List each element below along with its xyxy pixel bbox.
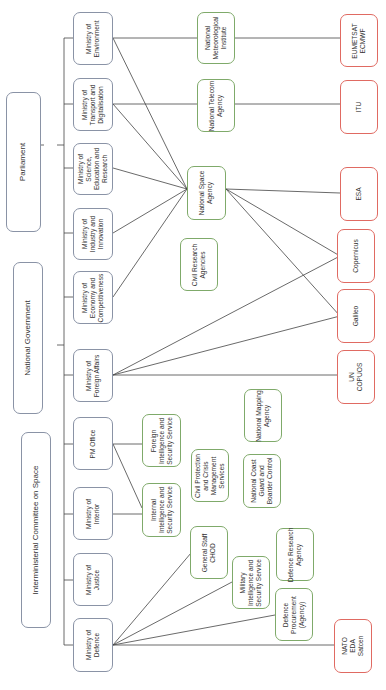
national-government-label: National Government — [24, 300, 32, 376]
intl-copernicus: Copernicus — [337, 229, 375, 283]
agency-label: Foreign Intelligence and Security Servic… — [150, 417, 174, 465]
agency-label: Civil Protection and Crisis Management S… — [194, 454, 226, 498]
agency-label: National Meteorological Institute — [204, 17, 228, 60]
agency-space: National Space Agency — [187, 166, 226, 220]
agency-military-intelligence: Military Intelligence and Security Servi… — [232, 556, 270, 609]
international-label: Copernicus — [352, 239, 360, 272]
agency-defence-research: Defence Research Agency — [276, 528, 314, 581]
agency-foreign-intelligence: Foreign Intelligence and Security Servic… — [142, 414, 181, 467]
agency-telecom: National Telecom Agency — [197, 79, 235, 132]
agency-mapping: National Mapping Agency — [244, 389, 282, 442]
ministry-label: Ministry of Justice — [85, 564, 101, 594]
ministry-foreign-affairs: Ministry of Foreign Affairs — [73, 349, 113, 402]
international-label: NATO EDA Satcen — [341, 636, 365, 657]
ministry-label: Ministry of Economy and Competitiveness — [81, 273, 105, 322]
agency-label: General Staff CHOD — [201, 533, 217, 572]
ministry-science: Ministry of Science, Education and Resea… — [73, 143, 113, 195]
ministry-label: Ministry of Defence — [85, 630, 101, 660]
agency-civil-protection: Civil Protection and Crisis Management S… — [191, 449, 229, 502]
agency-label: Civil Research Agencies — [191, 243, 207, 286]
intl-nato-eda-satcen: NATO EDA Satcen — [334, 619, 372, 673]
agency-label: National Space Agency — [199, 171, 215, 216]
intl-galileo: Galileo — [337, 289, 375, 343]
ministry-label: Ministry of Industry and Innovation — [81, 216, 105, 252]
ministry-industry: Ministry of Industry and Innovation — [73, 208, 113, 260]
intl-un-copuos: UN COPUOS — [337, 350, 375, 404]
ministry-transport: Ministry of Transport and Digitalisation — [73, 78, 113, 131]
agency-label: Military Intelligence and Security Servi… — [239, 559, 263, 607]
agency-label: Internal Intelligence and Security Servi… — [150, 486, 174, 534]
ministry-economy: Ministry of Economy and Competitiveness — [73, 271, 113, 324]
agency-civil-research: Civil Research Agencies — [180, 238, 218, 291]
ministry-label: Ministry of Environment — [85, 20, 101, 57]
agency-label: National Telecom Agency — [208, 80, 224, 130]
ministry-label: Ministry of Science, Education and Resea… — [77, 148, 109, 190]
intl-eumetsat-ecmwf: EUMETSAT ECMWF — [340, 14, 378, 67]
agency-general-staff: General Staff CHOD — [190, 526, 228, 579]
international-label: Galileo — [352, 306, 360, 327]
org-diagram: Parliament National Government Intermini… — [0, 0, 386, 690]
parliament-box: Parliament — [6, 92, 41, 232]
ministry-label: Ministry of Transport and Digitalisation — [81, 84, 105, 125]
international-label: ITU — [355, 102, 363, 113]
agency-label: National Coast Guard and Boarder Control — [250, 458, 274, 505]
interministerial-committee-label: Interministerial Committee on Space — [32, 466, 40, 595]
pm-office: PM Office — [73, 417, 113, 470]
agency-meteorological: National Meteorological Institute — [197, 12, 235, 64]
agency-internal-intelligence: Internal Intelligence and Security Servi… — [142, 483, 181, 537]
agency-label: National Mapping Agency — [255, 390, 271, 441]
parliament-label: Parliament — [20, 143, 28, 181]
ministry-defence: Ministry of Defence — [73, 618, 113, 672]
ministry-justice: Ministry of Justice — [73, 553, 113, 606]
ministry-label: PM Office — [89, 429, 97, 458]
intl-esa: ESA — [340, 167, 378, 221]
ministry-label: Ministry of Interior — [85, 498, 101, 528]
national-government-box: National Government — [13, 262, 43, 414]
agency-coast-guard: National Coast Guard and Boarder Control — [243, 454, 281, 508]
international-label: ESA — [355, 187, 363, 200]
connector-lines — [0, 0, 386, 690]
international-label: UN COPUOS — [348, 363, 364, 392]
agency-defence-procurement: Defence Procurement (Agency) — [275, 588, 313, 641]
agency-label: Defence Procurement (Agency) — [282, 596, 306, 634]
interministerial-committee-box: Interministerial Committee on Space — [21, 432, 51, 628]
ministry-environment: Ministry of Environment — [73, 12, 113, 65]
intl-itu: ITU — [340, 80, 378, 134]
ministry-label: Ministry of Foreign Affairs — [85, 354, 101, 396]
international-label: EUMETSAT ECMWF — [351, 23, 367, 58]
ministry-interior: Ministry of Interior — [73, 487, 113, 540]
agency-label: Defence Research Agency — [287, 527, 303, 582]
